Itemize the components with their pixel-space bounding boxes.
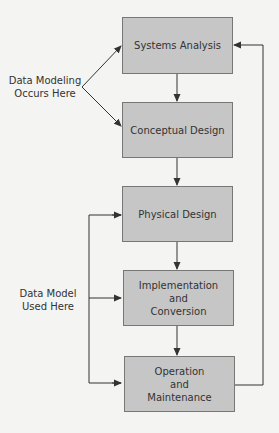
- box-label: and: [169, 292, 188, 305]
- operation-maintenance-box: Operation and Maintenance: [124, 356, 235, 412]
- implementation-conversion-box: Implementation and Conversion: [123, 270, 234, 326]
- data-modeling-annotation: Data Modeling Occurs Here: [5, 74, 85, 100]
- annotation-line: Occurs Here: [5, 87, 85, 100]
- physical-design-box: Physical Design: [122, 186, 233, 242]
- data-model-used-annotation: Data Model Used Here: [8, 287, 88, 313]
- box-label: Operation: [155, 365, 205, 378]
- box-label: Maintenance: [147, 391, 211, 404]
- box-label: Physical Design: [138, 208, 216, 221]
- box-label: Conceptual Design: [130, 124, 224, 137]
- conceptual-design-box: Conceptual Design: [122, 102, 233, 158]
- annotation-line: Data Model: [8, 287, 88, 300]
- annotation-line: Data Modeling: [5, 74, 85, 87]
- box-label: Conversion: [150, 305, 206, 318]
- box-label: Implementation: [139, 279, 218, 292]
- box-label: and: [170, 378, 189, 391]
- box-label: Systems Analysis: [134, 39, 221, 52]
- annotation-line: Used Here: [8, 300, 88, 313]
- systems-analysis-box: Systems Analysis: [122, 17, 233, 74]
